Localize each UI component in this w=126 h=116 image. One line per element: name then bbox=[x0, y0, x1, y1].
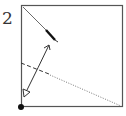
origami-diagram bbox=[0, 0, 126, 116]
hollow-arrowhead-icon bbox=[23, 89, 30, 97]
reference-dot bbox=[18, 104, 24, 110]
fold-arrow bbox=[23, 45, 50, 97]
valley-fold-line bbox=[21, 63, 121, 106]
existing-crease bbox=[23, 7, 58, 42]
